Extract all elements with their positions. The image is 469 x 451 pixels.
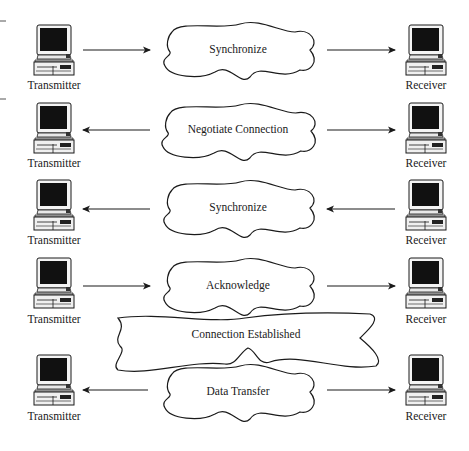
receiver-computer-icon xyxy=(406,355,446,405)
receiver-label: Receiver xyxy=(386,234,466,246)
transmitter-label: Transmitter xyxy=(14,157,94,169)
step-label-synchronize: Synchronize xyxy=(209,201,266,213)
transmitter-computer-icon xyxy=(34,355,74,405)
diagram-canvas xyxy=(0,0,469,451)
banner-cloud-shape xyxy=(116,313,379,372)
receiver-label: Receiver xyxy=(386,410,466,422)
receiver-computer-icon xyxy=(406,258,446,308)
receiver-label: Receiver xyxy=(386,157,466,169)
transmitter-label: Transmitter xyxy=(14,410,94,422)
step-label-data-transfer: Data Transfer xyxy=(207,385,270,397)
transmitter-label: Transmitter xyxy=(14,234,94,246)
transmitter-label: Transmitter xyxy=(14,79,94,91)
transmitter-label: Transmitter xyxy=(14,313,94,325)
receiver-computer-icon xyxy=(406,25,446,75)
transmitter-computer-icon xyxy=(34,103,74,153)
receiver-computer-icon xyxy=(406,180,446,230)
receiver-computer-icon xyxy=(406,103,446,153)
receiver-label: Receiver xyxy=(386,313,466,325)
banner-label-connection-established: Connection Established xyxy=(192,328,301,340)
transmitter-computer-icon xyxy=(34,258,74,308)
step-label-negotiate-connection: Negotiate Connection xyxy=(188,123,289,135)
step-label-synchronize: Synchronize xyxy=(209,43,266,55)
transmitter-computer-icon xyxy=(34,180,74,230)
transmitter-computer-icon xyxy=(34,25,74,75)
step-label-acknowledge: Acknowledge xyxy=(206,279,270,291)
receiver-label: Receiver xyxy=(386,79,466,91)
